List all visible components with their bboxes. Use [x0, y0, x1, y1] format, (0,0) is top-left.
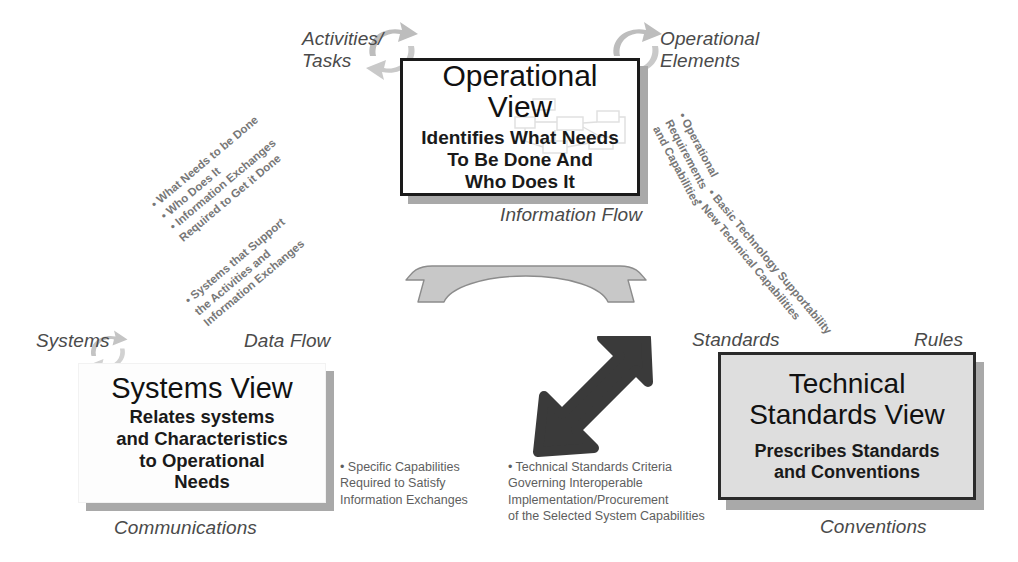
operational-view-subtitle: Identifies What Needs To Be Done And Who… [421, 127, 618, 194]
technical-standards-view-label-rules: Rules [914, 329, 963, 351]
systems-view-label-data-flow: Data Flow [244, 330, 330, 352]
double-headed-diagonal-arrow-icon [498, 336, 668, 476]
systems-view-title: Systems View [111, 373, 293, 403]
technical-standards-view-title: Technical Standards View [749, 369, 945, 431]
operational-view-box[interactable]: Operational View Identifies What Needs T… [400, 58, 640, 196]
systems-view-subtitle: Relates systems and Characteristics to O… [116, 406, 288, 493]
annotation-bottom-left: • Specific Capabilities Required to Sati… [340, 459, 520, 508]
technical-standards-view-label-standards: Standards [692, 329, 780, 351]
annotation-bottom-right: • Technical Standards Criteria Governing… [508, 459, 728, 524]
diagram-canvas: Activities/ Tasks Operational Elements I… [0, 0, 1018, 562]
systems-view-box[interactable]: Systems View Relates systems and Charact… [78, 363, 326, 503]
technical-standards-view-box[interactable]: Technical Standards View Prescribes Stan… [718, 352, 976, 500]
double-headed-arch-arrow-icon [402, 258, 650, 320]
technical-standards-view-subtitle: Prescribes Standards and Conventions [754, 441, 939, 483]
operational-view-label-information-flow: Information Flow [500, 204, 642, 226]
technical-standards-view-label-conventions: Conventions [820, 516, 927, 538]
systems-view-label-communications: Communications [114, 517, 257, 539]
operational-view-label-operational-elements: Operational Elements [660, 28, 759, 72]
systems-view-label-systems: Systems [36, 330, 110, 352]
operational-view-title: Operational View [442, 60, 597, 122]
